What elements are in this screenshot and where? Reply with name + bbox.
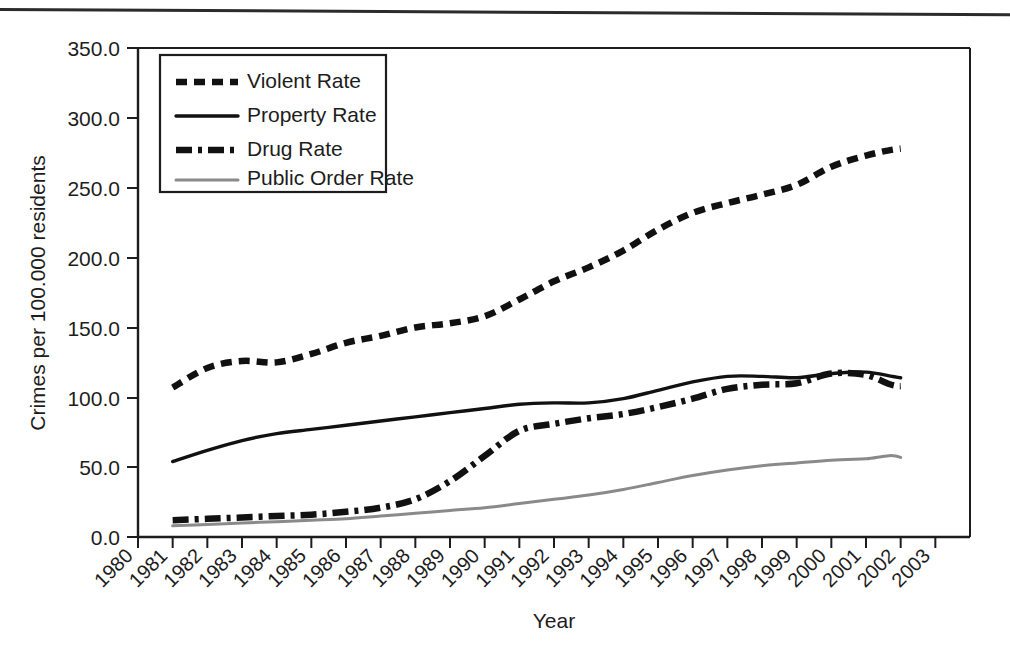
x-axis-title: Year — [533, 609, 575, 632]
data-series-layer — [173, 149, 901, 526]
x-tick-label: 1992 — [506, 544, 553, 591]
legend-label-public-order: Public Order Rate — [247, 166, 414, 189]
y-tick-label: 250.0 — [67, 177, 120, 200]
x-tick-label: 1984 — [228, 544, 275, 591]
x-tick-label: 1980 — [90, 544, 137, 591]
legend: Violent Rate Property Rate Drug Rate Pub… — [160, 55, 414, 192]
series-line-drug-rate — [173, 373, 901, 520]
x-tick-label: 2000 — [783, 544, 830, 591]
y-tick-label: 100.0 — [67, 387, 120, 410]
x-tick-label: 1993 — [540, 544, 587, 591]
x-axis-tick-labels: 1980198119821983198419851986198719881989… — [90, 544, 934, 591]
x-tick-label: 1994 — [575, 544, 622, 591]
x-tick-label: 1989 — [402, 544, 449, 591]
x-tick-label: 1985 — [263, 544, 310, 591]
y-axis-tick-labels: 350.0 300.0 250.0 200.0 150.0 100.0 50.0… — [67, 37, 120, 549]
figure-container: 350.0 300.0 250.0 200.0 150.0 100.0 50.0… — [0, 0, 1010, 660]
x-tick-label: 1982 — [159, 544, 206, 591]
x-tick-label: 1987 — [332, 544, 379, 591]
legend-label-property: Property Rate — [247, 103, 377, 126]
x-tick-label: 2003 — [887, 544, 934, 591]
x-tick-label: 1983 — [194, 544, 241, 591]
y-tick-label: 200.0 — [67, 247, 120, 270]
x-tick-label: 1990 — [436, 544, 483, 591]
y-axis-ticks — [127, 48, 138, 537]
x-tick-label: 1995 — [610, 544, 657, 591]
x-tick-label: 1988 — [367, 544, 414, 591]
y-tick-label: 0.0 — [91, 526, 120, 549]
legend-label-violent: Violent Rate — [247, 69, 361, 92]
x-tick-label: 2001 — [818, 544, 865, 591]
y-axis-title: Crimes per 100.000 residents — [26, 155, 49, 430]
y-tick-label: 350.0 — [67, 37, 120, 60]
y-tick-label: 50.0 — [79, 456, 120, 479]
x-tick-label: 1998 — [714, 544, 761, 591]
line-chart: 350.0 300.0 250.0 200.0 150.0 100.0 50.0… — [0, 0, 1010, 660]
y-tick-label: 150.0 — [67, 317, 120, 340]
x-tick-label: 1981 — [124, 544, 171, 591]
x-tick-label: 1986 — [298, 544, 345, 591]
y-tick-label: 300.0 — [67, 107, 120, 130]
x-tick-label: 2002 — [852, 544, 899, 591]
x-tick-label: 1999 — [748, 544, 795, 591]
x-tick-label: 1997 — [679, 544, 726, 591]
x-tick-label: 1991 — [471, 544, 518, 591]
x-tick-label: 1996 — [644, 544, 691, 591]
legend-label-drug: Drug Rate — [247, 137, 343, 160]
